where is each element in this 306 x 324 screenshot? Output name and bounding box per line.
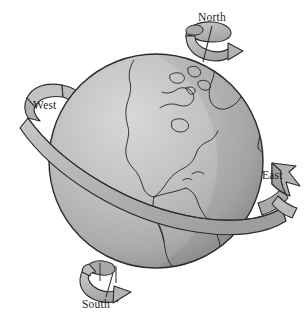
west-label: West	[33, 100, 57, 112]
south-rotation-arrow	[80, 261, 131, 303]
globe-rotation-figure: North West East South	[0, 0, 306, 324]
north-rotation-arrow	[186, 22, 243, 61]
north-label: North	[198, 12, 226, 24]
south-label: South	[82, 299, 110, 311]
globe-diagram-svg	[0, 0, 306, 324]
east-label: East	[262, 170, 283, 182]
earth-sphere	[49, 54, 290, 279]
